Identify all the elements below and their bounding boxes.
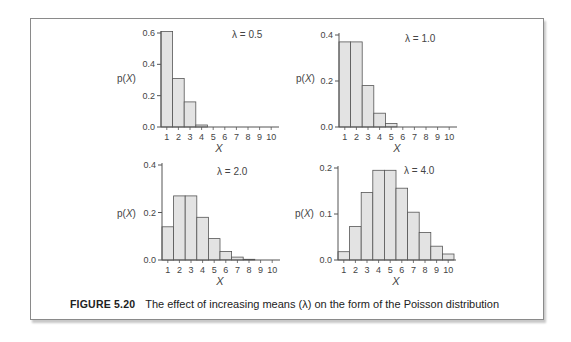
bar: [351, 42, 363, 127]
chart-panel-1: 0.00.20.40.612345678910Xp(X)λ = 0.5: [117, 28, 279, 154]
x-tick-label: 9: [257, 132, 262, 142]
x-axis-label: X: [215, 275, 224, 287]
bar: [431, 246, 443, 260]
x-tick-label: 6: [222, 132, 227, 142]
bar: [338, 252, 350, 260]
bar: [197, 217, 209, 260]
x-tick-label: 5: [388, 265, 393, 275]
x-tick-label: 5: [211, 132, 216, 142]
x-tick-label: 5: [389, 132, 394, 142]
bar: [408, 212, 420, 260]
x-tick-label: 6: [400, 132, 405, 142]
x-tick-label: 7: [412, 132, 417, 142]
bar: [396, 188, 408, 260]
y-tick-label: 0.6: [142, 28, 155, 38]
x-tick-label: 4: [376, 265, 381, 275]
x-tick-label: 3: [364, 265, 369, 275]
bar: [419, 232, 431, 260]
bar: [362, 86, 374, 127]
x-tick-label: 10: [443, 265, 453, 275]
lambda-label: λ = 4.0: [404, 165, 435, 176]
y-tick-label: 0.4: [320, 30, 333, 40]
x-tick-label: 3: [188, 265, 193, 275]
x-tick-label: 3: [187, 132, 192, 142]
bar: [161, 31, 173, 127]
x-tick-label: 6: [399, 265, 404, 275]
x-tick-label: 8: [422, 265, 427, 275]
bar: [208, 239, 220, 260]
y-tick-label: 0.0: [142, 122, 155, 132]
bar: [339, 42, 351, 127]
y-axis-label: p(X): [117, 208, 136, 219]
y-tick-label: 0.2: [142, 91, 155, 101]
x-tick-label: 4: [200, 265, 205, 275]
x-tick-label: 1: [342, 132, 347, 142]
x-tick-label: 10: [267, 265, 277, 275]
y-axis-label: p(X): [295, 208, 314, 219]
poisson-charts: 0.00.20.40.612345678910Xp(X)λ = 0.50.00.…: [0, 0, 571, 342]
lambda-label: λ = 0.5: [232, 29, 263, 40]
bar: [173, 78, 185, 127]
chart-panel-4: 0.00.10.212345678910Xp(X)λ = 4.0: [295, 163, 456, 287]
chart-panel-3: 0.00.20.412345678910Xp(X)λ = 2.0: [117, 160, 280, 287]
x-tick-label: 2: [354, 132, 359, 142]
y-tick-label: 0.0: [143, 255, 156, 265]
bar: [384, 170, 396, 260]
y-axis-label: p(X): [117, 73, 136, 84]
bar: [174, 196, 186, 260]
y-tick-label: 0.2: [143, 208, 156, 218]
y-tick-label: 0.2: [320, 76, 333, 86]
x-tick-label: 8: [246, 265, 251, 275]
bar: [442, 254, 454, 260]
x-tick-label: 2: [177, 265, 182, 275]
figure-caption: FIGURE 5.20The effect of increasing mean…: [70, 298, 499, 310]
x-tick-label: 6: [223, 265, 228, 275]
y-tick-label: 0.4: [143, 160, 156, 170]
bar: [350, 226, 362, 260]
y-tick-label: 0.4: [142, 59, 155, 69]
x-tick-label: 4: [377, 132, 382, 142]
bar: [184, 102, 196, 127]
bar: [373, 170, 385, 260]
chart-panel-2: 0.00.20.412345678910Xp(X)λ = 1.0: [296, 30, 457, 154]
y-tick-label: 0.1: [319, 209, 332, 219]
figure-number: FIGURE 5.20: [70, 298, 135, 310]
x-axis-label: X: [214, 142, 223, 154]
x-tick-label: 10: [266, 132, 276, 142]
x-axis-label: X: [391, 275, 400, 287]
x-tick-label: 9: [258, 265, 263, 275]
bar: [385, 124, 397, 127]
x-tick-label: 7: [235, 265, 240, 275]
x-tick-label: 1: [165, 265, 170, 275]
x-tick-label: 8: [423, 132, 428, 142]
lambda-label: λ = 2.0: [217, 166, 248, 177]
x-tick-label: 7: [411, 265, 416, 275]
bar: [162, 227, 174, 260]
x-tick-label: 9: [435, 132, 440, 142]
x-axis-label: X: [392, 142, 401, 154]
x-tick-label: 8: [245, 132, 250, 142]
x-tick-label: 7: [234, 132, 239, 142]
x-tick-label: 1: [164, 132, 169, 142]
caption-text: The effect of increasing means (λ) on th…: [145, 298, 499, 310]
x-tick-label: 2: [353, 265, 358, 275]
x-tick-label: 1: [341, 265, 346, 275]
y-tick-label: 0.2: [319, 163, 332, 173]
x-tick-label: 5: [212, 265, 217, 275]
y-tick-label: 0.0: [319, 255, 332, 265]
lambda-label: λ = 1.0: [405, 33, 436, 44]
x-tick-label: 10: [444, 132, 454, 142]
y-axis-label: p(X): [296, 73, 315, 84]
bar: [374, 113, 386, 127]
bar: [185, 196, 197, 260]
x-tick-label: 4: [199, 132, 204, 142]
y-tick-label: 0.0: [320, 122, 333, 132]
bar: [220, 251, 232, 260]
bar: [361, 192, 373, 260]
x-tick-label: 3: [365, 132, 370, 142]
x-tick-label: 9: [434, 265, 439, 275]
x-tick-label: 2: [176, 132, 181, 142]
